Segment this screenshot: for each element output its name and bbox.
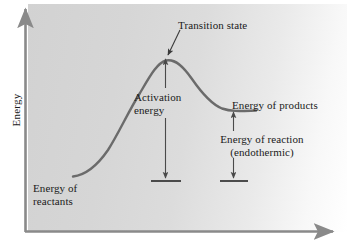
label-transition-state: Transition state bbox=[178, 19, 247, 32]
reaction-coordinate-curve bbox=[73, 60, 256, 176]
label-energy-of-products: Energy of products bbox=[232, 99, 318, 112]
label-energy-of-reaction: Energy of reaction (endothermic) bbox=[199, 133, 325, 158]
label-activation-energy: Activation energy bbox=[134, 91, 181, 116]
transition-state-pointer bbox=[168, 30, 180, 55]
y-axis-label: Energy bbox=[10, 80, 22, 140]
label-energy-of-reactants: Energy of reactants bbox=[33, 182, 77, 207]
diagram-canvas bbox=[0, 0, 347, 249]
reaction-energy-diagram: Energy Transition state Activation energ… bbox=[0, 0, 347, 249]
